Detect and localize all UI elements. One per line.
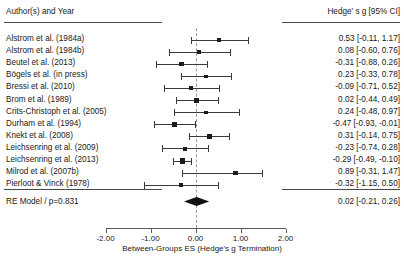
x-axis-tick xyxy=(106,229,107,233)
study-estimate: 0.23 [-0.33, 0.78] xyxy=(338,70,400,80)
study-label: Bögels et al. (in press) xyxy=(6,70,87,80)
effect-size-marker xyxy=(183,147,187,151)
effect-size-marker xyxy=(172,122,177,127)
summary-rule-right xyxy=(282,189,400,190)
study-estimate: -0.47 [-0.93, -0.01] xyxy=(333,119,400,129)
ci-cap-upper xyxy=(218,182,219,189)
ci-cap-lower xyxy=(176,97,177,104)
ci-cap-upper xyxy=(239,109,240,116)
x-axis-tick-label: -2.00 xyxy=(96,234,114,243)
x-axis-tick-label: 2.00 xyxy=(278,234,294,243)
effect-size-marker xyxy=(217,38,221,42)
summary-label: RE Model / p=0.831 xyxy=(6,197,79,207)
study-estimate: -0.32 [-1.15, 0.50] xyxy=(335,179,400,189)
ci-cap-lower xyxy=(162,145,163,152)
study-estimate: -0.29 [-0.49, -0.10] xyxy=(333,155,400,165)
effect-size-marker xyxy=(179,62,183,66)
confidence-interval-line xyxy=(182,173,262,174)
ci-cap-lower xyxy=(144,182,145,189)
summary-rule-left xyxy=(4,189,162,190)
study-estimate: 0.89 [-0.31, 1.47] xyxy=(338,167,400,177)
study-label: Milrod et al. (2007b) xyxy=(6,167,79,177)
x-axis-tick xyxy=(241,229,242,233)
ci-cap-lower xyxy=(181,73,182,80)
study-label: Leichsenring et al. (2013) xyxy=(6,155,98,165)
ci-cap-lower xyxy=(154,121,155,128)
x-axis-tick xyxy=(286,229,287,233)
x-axis-tick-label: 0.00 xyxy=(188,234,204,243)
study-label: Alstrom et al. (1984b) xyxy=(6,46,84,56)
summary-estimate: 0.02 [-0.21, 0.26] xyxy=(338,197,400,207)
ci-cap-upper xyxy=(248,37,249,44)
study-label: Alstrom et al. (1984a) xyxy=(6,34,84,44)
effect-size-marker xyxy=(197,50,201,54)
effect-size-marker xyxy=(207,134,212,139)
study-label: Pierloot & Vinck (1978) xyxy=(6,179,90,189)
ci-cap-upper xyxy=(191,158,192,165)
study-estimate: 0.31 [-0.14, 0.75] xyxy=(338,131,400,141)
study-label: Bressi et al. (2010) xyxy=(6,82,75,92)
summary-diamond xyxy=(184,197,209,206)
study-estimate: 0.24 [-0.48, 0.97] xyxy=(338,107,400,117)
study-label: Durham et al. (1994) xyxy=(6,119,81,129)
study-label: Leichsenring et al. (2009) xyxy=(6,143,98,153)
study-estimate: 0.08 [-0.60, 0.76] xyxy=(338,46,400,56)
ci-cap-lower xyxy=(164,85,165,92)
x-axis-title: Between-Groups ES (Hedge's g Termination… xyxy=(0,244,404,253)
ci-cap-upper xyxy=(218,97,219,104)
effect-size-marker xyxy=(179,183,183,187)
ci-cap-lower xyxy=(174,109,175,116)
ci-cap-lower xyxy=(182,170,183,177)
ci-cap-upper xyxy=(219,85,220,92)
study-label: Beutel et al. (2013) xyxy=(6,58,75,68)
study-estimate: -0.09 [-0.71, 0.52] xyxy=(335,82,400,92)
ci-cap-upper xyxy=(229,133,230,140)
study-label: Knekt et al. (2008) xyxy=(6,131,73,141)
header-estimate-column: Hedge' s g [95% CI] xyxy=(327,7,400,16)
header-rule-left xyxy=(4,22,162,23)
ci-cap-upper xyxy=(230,49,231,56)
x-axis-tick-label: -1.00 xyxy=(141,234,159,243)
study-estimate: -0.31 [-0.88, 0.26] xyxy=(335,58,400,68)
effect-size-marker xyxy=(204,75,208,79)
effect-size-marker xyxy=(233,171,237,175)
ci-cap-lower xyxy=(189,133,190,140)
ci-cap-lower xyxy=(169,49,170,56)
study-estimate: 0.02 [-0.44, 0.49] xyxy=(338,95,400,105)
forest-plot: Author(s) and Year Hedge' s g [95% CI] A… xyxy=(0,0,404,259)
x-axis-tick xyxy=(196,229,197,233)
header-rule-right xyxy=(282,22,400,23)
ci-cap-upper xyxy=(208,145,209,152)
header-author-column: Author(s) and Year xyxy=(6,7,74,16)
ci-cap-upper xyxy=(262,170,263,177)
x-axis-tick xyxy=(151,229,152,233)
study-label: Crits-Christoph et al. (2005) xyxy=(6,107,107,117)
ci-cap-lower xyxy=(173,158,174,165)
effect-size-marker xyxy=(189,86,193,90)
study-estimate: 0.53 [-0.11, 1.17] xyxy=(339,34,400,44)
ci-cap-upper xyxy=(207,61,208,68)
x-axis-tick-label: 1.00 xyxy=(233,234,249,243)
ci-cap-upper xyxy=(195,121,196,128)
ci-cap-upper xyxy=(231,73,232,80)
ci-cap-lower xyxy=(191,37,192,44)
study-estimate: -0.23 [-0.74, 0.28] xyxy=(335,143,400,153)
effect-size-marker xyxy=(194,98,199,103)
effect-size-marker xyxy=(204,111,208,115)
study-label: Brom et al. (1989) xyxy=(6,95,72,105)
ci-cap-lower xyxy=(156,61,157,68)
effect-size-marker xyxy=(180,158,186,164)
